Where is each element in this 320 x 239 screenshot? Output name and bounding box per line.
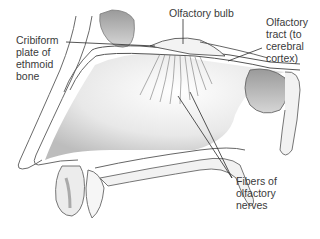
- olfactory-bulb: [150, 38, 225, 56]
- label-olfactory-bulb: Olfactory bulb: [169, 7, 234, 19]
- label-olfactory-tract: Olfactory tract (to cerebral cortex): [266, 16, 308, 64]
- label-olfactory-nerve-fibers: Fibers of olfactory nerves: [236, 175, 277, 211]
- sphenoid-sinus: [245, 69, 288, 113]
- nasal-cavity: [45, 54, 285, 160]
- frontal-sinus: [100, 10, 135, 47]
- incisor: [86, 170, 104, 218]
- label-cribriform-plate: Cribiform plate of ethmoid bone: [16, 34, 59, 82]
